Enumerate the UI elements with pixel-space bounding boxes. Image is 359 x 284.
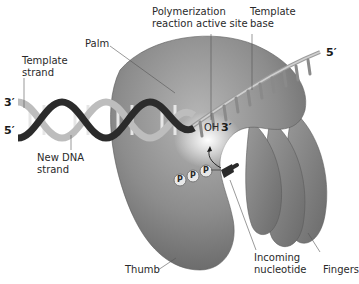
strand-end-left-top: 3′ [4, 96, 15, 109]
label-incoming-line1: Incoming [254, 252, 300, 264]
phosphate-3: P [203, 165, 209, 177]
label-oh: OH [204, 122, 219, 134]
label-fingers: Fingers [323, 264, 359, 276]
label-oh-3prime: 3′ [221, 121, 232, 134]
label-palm: Palm [85, 38, 109, 50]
label-polymerization-line1: Polymerization [152, 6, 226, 18]
label-new-dna-line1: New DNA [37, 152, 84, 164]
label-template-strand-line1: Template [22, 55, 68, 67]
label-template-base-line2: base [250, 18, 274, 30]
label-incoming-line2: nucleotide [254, 264, 306, 276]
incoming-nucleotide [221, 164, 237, 178]
strand-end-left-bottom: 5′ [4, 124, 15, 137]
fingers-domain [246, 110, 327, 247]
label-new-dna-line2: strand [37, 164, 69, 176]
label-polymerization-line2: reaction active site [152, 18, 248, 30]
label-thumb: Thumb [125, 264, 160, 276]
label-template-strand-line2: strand [22, 67, 54, 79]
phosphate-2: P [190, 170, 196, 182]
strand-end-right-top: 5′ [326, 46, 337, 59]
label-template-base-line1: Template [250, 6, 296, 18]
phosphate-1: P [177, 174, 183, 186]
